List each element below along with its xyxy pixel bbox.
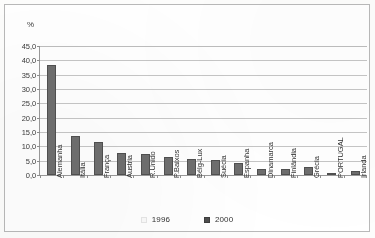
bar-2000[interactable] bbox=[351, 171, 360, 175]
bar-2000[interactable] bbox=[187, 159, 196, 175]
legend-swatch-2000-icon bbox=[204, 217, 210, 223]
x-axis-label-slot: PORTUGAL bbox=[320, 178, 343, 212]
bar-2000[interactable] bbox=[94, 142, 103, 175]
bar-2000[interactable] bbox=[211, 160, 220, 175]
x-axis-label-slot: Grécia bbox=[297, 178, 320, 212]
bar-2000[interactable] bbox=[257, 169, 266, 175]
x-axis-label-slot: Dinamarca bbox=[250, 178, 273, 212]
legend-swatch-1996-icon bbox=[141, 217, 147, 223]
x-axis-category-label: Irlanda bbox=[359, 155, 368, 178]
x-axis-label-group: AlemanhaItáliaFrançaÁustriaR.UnidoP.Baix… bbox=[39, 178, 367, 212]
bar-2000[interactable] bbox=[304, 167, 313, 175]
x-axis-label-slot: Suécia bbox=[203, 178, 226, 212]
bar-2000[interactable] bbox=[47, 65, 56, 175]
bar-slot[interactable] bbox=[63, 46, 86, 175]
x-axis-label-slot: Finlândia bbox=[273, 178, 296, 212]
x-axis-label-slot: R.Unido bbox=[133, 178, 156, 212]
bar-2000[interactable] bbox=[327, 173, 336, 175]
bar-2000[interactable] bbox=[234, 163, 243, 175]
legend-label-1996: 1996 bbox=[152, 215, 170, 224]
x-axis-category-label: Grécia bbox=[312, 156, 321, 178]
bar-2000[interactable] bbox=[71, 136, 80, 175]
x-axis-label-slot: Espanha bbox=[226, 178, 249, 212]
x-axis-category-label: Finlândia bbox=[288, 148, 297, 178]
x-axis-label-slot: Bélg-Lux bbox=[180, 178, 203, 212]
chart-screenshot: % 45,040,035,030,025,020,015,010,05,00,0… bbox=[0, 0, 375, 238]
y-axis-unit-label: % bbox=[27, 20, 34, 29]
bar-2000[interactable] bbox=[164, 157, 173, 175]
legend-item-2000[interactable]: 2000 bbox=[204, 215, 233, 224]
x-axis-label-slot: Áustria bbox=[109, 178, 132, 212]
x-axis-label-slot: Alemanha bbox=[39, 178, 62, 212]
x-axis-label-slot: Itália bbox=[62, 178, 85, 212]
figure-frame: % 45,040,035,030,025,020,015,010,05,00,0… bbox=[4, 4, 370, 232]
chart-legend: 1996 2000 bbox=[5, 215, 369, 224]
bar-2000[interactable] bbox=[281, 169, 290, 175]
x-axis-label-slot: Irlanda bbox=[343, 178, 366, 212]
x-axis-label-slot: França bbox=[86, 178, 109, 212]
legend-item-1996[interactable]: 1996 bbox=[141, 215, 170, 224]
bar-2000[interactable] bbox=[117, 153, 126, 175]
legend-label-2000: 2000 bbox=[215, 215, 233, 224]
x-axis-label-slot: P.Baixos bbox=[156, 178, 179, 212]
bar-2000[interactable] bbox=[141, 154, 150, 176]
x-axis-category-label: PORTUGAL bbox=[335, 137, 344, 178]
